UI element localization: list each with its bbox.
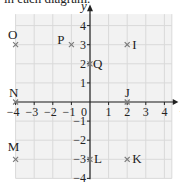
x-tick-label: 1: [106, 105, 112, 119]
point-label-i: I: [132, 37, 136, 52]
y-tick-label: 3: [80, 38, 86, 52]
y-tick-label: −1: [73, 114, 86, 128]
y-tick-label: 4: [80, 19, 86, 33]
point-label-n: N: [9, 85, 19, 100]
point-label-o: O: [8, 27, 17, 42]
x-tick-label: −2: [44, 105, 57, 119]
point-label-j: J: [125, 85, 130, 100]
point-label-m: M: [8, 139, 20, 154]
point-label-p: P: [57, 32, 64, 47]
y-tick-label: −3: [73, 152, 86, 166]
y-tick-label: 1: [80, 76, 86, 90]
y-axis-arrow-icon: [87, 5, 93, 12]
x-tick-label: −3: [25, 105, 38, 119]
y-tick-label: −2: [73, 133, 86, 147]
point-label-k: K: [132, 151, 142, 166]
x-tick-label: 3: [143, 105, 149, 119]
x-tick-label: −4: [7, 105, 20, 119]
y-tick-label: 2: [80, 57, 86, 71]
x-tick-label: 2: [124, 105, 130, 119]
y-axis-label: y: [79, 0, 87, 13]
point-label-l: L: [94, 151, 102, 166]
coordinate-grid: xy−4−3−2−1012344321−1−2−3−4OPIQNJMLK: [0, 0, 180, 186]
x-axis-arrow-icon: [173, 99, 179, 105]
x-tick-label: 4: [161, 105, 167, 119]
x-axis-label: x: [179, 100, 180, 115]
point-label-q: Q: [93, 56, 103, 71]
y-tick-label: −4: [73, 171, 86, 185]
